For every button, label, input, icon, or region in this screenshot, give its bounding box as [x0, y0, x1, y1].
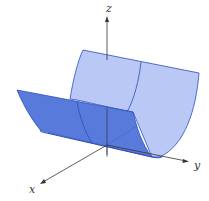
y-axis-arrow-icon	[183, 159, 190, 163]
y-axis	[107, 145, 186, 161]
x-axis-label: x	[29, 183, 36, 196]
z-axis-arrow-icon	[105, 16, 109, 22]
parabolic-cylinder-diagram: z y x	[0, 0, 209, 201]
y-axis-label: y	[193, 159, 201, 172]
z-axis-label: z	[105, 2, 112, 15]
x-axis	[43, 145, 107, 182]
x-axis-arrow-icon	[40, 179, 46, 184]
